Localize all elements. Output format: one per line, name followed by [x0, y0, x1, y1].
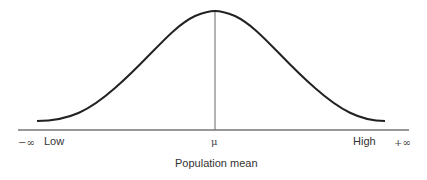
mu-label: μ	[211, 136, 218, 147]
bell-curve	[37, 11, 385, 121]
low-label: Low	[44, 135, 64, 147]
pos-infinity-label: +∞	[394, 137, 411, 148]
high-label: High	[353, 135, 376, 147]
population-mean-caption: Population mean	[175, 157, 258, 169]
normal-curve-diagram	[0, 0, 427, 180]
neg-infinity-label: −∞	[18, 137, 35, 148]
